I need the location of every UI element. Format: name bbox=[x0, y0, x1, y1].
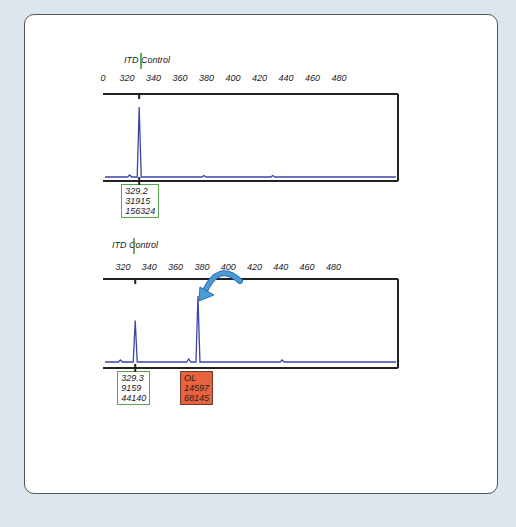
trace-line bbox=[105, 296, 396, 362]
trace-line bbox=[105, 107, 396, 177]
electropherogram-plot bbox=[0, 0, 516, 527]
